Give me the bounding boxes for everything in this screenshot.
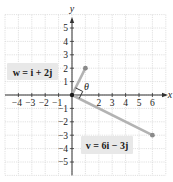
x-tick-label: −2 [39,98,49,108]
vector-w-label: w = i + 2j [7,63,58,80]
x-tick-label: 5 [137,98,142,108]
x-tick-label: −3 [25,98,35,108]
y-tick-label: 5 [63,23,68,33]
x-tick-label: 6 [150,98,155,108]
y-axis-arrow-icon [70,17,74,23]
y-tick-label: −5 [58,157,68,167]
vector-v-endpoint [150,133,155,138]
y-tick-label: −1 [58,104,68,114]
vector-w-endpoint [83,66,88,71]
x-tick-label: −4 [12,98,22,108]
origin-point [70,93,74,97]
y-tick-label: 4 [63,37,68,47]
y-tick-label: 1 [63,77,68,87]
coordinate-plane: xy −4−3−2−12345654321−1−2−3−4−5 θ w = i … [0,0,173,182]
y-axis-label: y [69,3,75,14]
svg-text:v = 6i − 3j: v = 6i − 3j [86,140,129,151]
angle-theta-label: θ [84,81,89,92]
x-tick-label: 3 [110,98,115,108]
x-tick-label: 4 [123,98,128,108]
svg-text:w = i + 2j: w = i + 2j [13,67,53,78]
x-axis-label: x [167,89,173,100]
vector-v-label: v = 6i − 3j [81,136,133,154]
y-tick-label: 2 [63,64,68,74]
y-tick-label: −3 [58,131,68,141]
y-tick-label: −2 [58,117,68,127]
y-tick-label: 3 [63,50,68,60]
vector-diagram: xy −4−3−2−12345654321−1−2−3−4−5 θ w = i … [0,0,173,182]
y-tick-label: −4 [58,144,68,154]
